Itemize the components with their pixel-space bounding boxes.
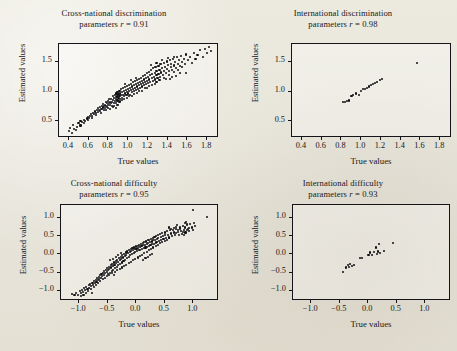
data-point	[133, 93, 135, 95]
data-point	[164, 234, 166, 236]
data-point	[95, 114, 97, 116]
y-tick-mark	[55, 61, 58, 62]
y-tick-label: 0.5	[22, 230, 54, 239]
data-point	[194, 58, 196, 60]
data-point	[381, 78, 383, 80]
x-tick-label: 0.5	[382, 304, 410, 313]
x-tick-label: 1.8	[425, 141, 453, 150]
data-point	[165, 78, 167, 80]
data-point	[168, 237, 170, 239]
data-point	[77, 294, 79, 296]
data-point	[148, 71, 150, 73]
panel-title-line2: parameters r = 0.98	[229, 19, 457, 30]
data-point	[148, 85, 150, 87]
data-point	[167, 234, 169, 236]
y-tick-mark	[289, 253, 292, 254]
x-tick-label: 1.0	[410, 304, 438, 313]
x-tick-mark	[192, 300, 193, 303]
x-tick-mark	[186, 137, 187, 140]
data-point	[131, 95, 133, 97]
data-point	[135, 77, 137, 79]
x-tick-label: 1.8	[192, 141, 220, 150]
data-point	[93, 286, 95, 288]
data-point	[175, 226, 177, 228]
data-point	[166, 230, 168, 232]
data-point	[140, 77, 142, 79]
data-point	[379, 252, 381, 254]
data-point	[181, 61, 183, 63]
data-point	[95, 284, 97, 286]
y-tick-label: −0.5	[22, 266, 54, 275]
x-tick-mark	[107, 300, 108, 303]
data-point	[208, 46, 210, 48]
y-tick-mark	[55, 120, 58, 121]
y-tick-mark	[57, 290, 60, 291]
data-point	[151, 84, 153, 86]
y-tick-mark	[289, 217, 292, 218]
data-point	[206, 52, 208, 54]
y-tick-mark	[288, 91, 291, 92]
data-point	[128, 256, 130, 258]
data-point	[109, 108, 111, 110]
x-axis-label: True values	[58, 156, 218, 166]
plot-frame	[60, 204, 218, 300]
data-point	[193, 52, 195, 54]
data-point	[416, 62, 418, 64]
data-point	[183, 58, 185, 60]
data-point	[367, 254, 369, 256]
x-tick-mark	[147, 137, 148, 140]
data-point	[178, 59, 180, 61]
data-point	[175, 232, 177, 234]
scatter-plot-area	[292, 44, 450, 136]
data-point	[175, 75, 177, 77]
panel-title-line2: parameters r = 0.91	[0, 19, 228, 30]
title-prefix: parameters	[79, 189, 120, 199]
data-point	[169, 78, 171, 80]
y-tick-label: 0.5	[253, 115, 285, 124]
panel-cross-national-discrimination: Cross-national discrimination parameters…	[0, 8, 228, 175]
correlation-value: = 0.93	[353, 189, 378, 199]
data-point	[166, 239, 168, 241]
data-point	[128, 95, 130, 97]
data-point	[371, 254, 373, 256]
data-point	[72, 124, 74, 126]
data-point	[90, 288, 92, 290]
data-point	[375, 246, 377, 248]
panel-title: Cross-national discrimination parameters…	[0, 8, 228, 30]
data-point	[348, 99, 350, 101]
x-tick-mark	[339, 300, 340, 303]
plot-frame	[58, 43, 218, 137]
data-point	[176, 56, 178, 58]
panel-title: International difficulty parameters r = …	[229, 178, 457, 200]
data-point	[150, 69, 152, 71]
y-tick-label: −1.0	[22, 284, 54, 293]
data-point	[174, 61, 176, 63]
x-tick-mark	[88, 137, 89, 140]
data-point	[167, 64, 169, 66]
correlation-value: = 0.95	[124, 189, 149, 199]
x-tick-label: 1.0	[178, 304, 206, 313]
data-point	[378, 243, 380, 245]
data-point	[79, 124, 81, 126]
y-tick-mark	[289, 235, 292, 236]
data-point	[183, 234, 185, 236]
data-point	[154, 83, 156, 85]
data-point	[184, 231, 186, 233]
data-point	[168, 70, 170, 72]
x-tick-label: 0.5	[150, 304, 178, 313]
y-tick-label: 0.0	[254, 248, 286, 257]
data-point	[159, 76, 161, 78]
data-point	[173, 227, 175, 229]
x-tick-mark	[419, 137, 420, 140]
data-point	[87, 290, 89, 292]
data-point	[85, 292, 87, 294]
x-tick-mark	[400, 137, 401, 140]
x-tick-mark	[439, 137, 440, 140]
data-point	[181, 66, 183, 68]
y-tick-label: 1.0	[22, 211, 54, 220]
data-point	[146, 251, 148, 253]
data-point	[168, 226, 170, 228]
scatter-plot-area	[59, 44, 217, 136]
data-point	[68, 130, 70, 132]
x-tick-mark	[301, 137, 302, 140]
